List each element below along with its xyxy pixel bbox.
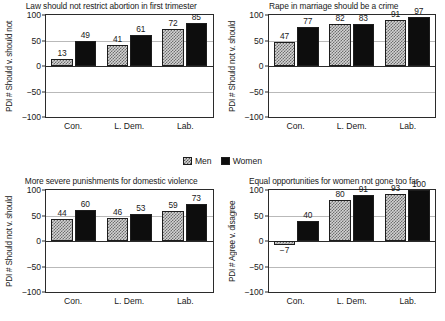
bar-value-label: 41 bbox=[113, 35, 122, 43]
bar-slot: 41 bbox=[106, 15, 129, 117]
bar-value-label: 82 bbox=[335, 14, 344, 22]
plot-frame: 100500−50−100−740809193100 bbox=[268, 189, 437, 293]
plot-frame: 100500−50−100134941617285 bbox=[45, 14, 214, 118]
bar-value-label: 60 bbox=[81, 200, 90, 208]
legend-item-women: Women bbox=[221, 156, 262, 166]
y-tick-label: −100 bbox=[244, 287, 263, 297]
bar-women[interactable] bbox=[130, 214, 151, 241]
bar-group: 4777 bbox=[273, 15, 320, 117]
x-axis-labels: Con.L. Dem.Lab. bbox=[45, 296, 214, 306]
bar-value-label: 97 bbox=[414, 7, 423, 15]
x-axis-label: Lab. bbox=[384, 121, 431, 131]
bar-men[interactable] bbox=[385, 20, 406, 66]
bar-women[interactable] bbox=[408, 17, 429, 66]
bar-women[interactable] bbox=[186, 204, 207, 241]
x-axis-label: L. Dem. bbox=[106, 121, 153, 131]
y-tick-label: 50 bbox=[31, 211, 41, 221]
bar-women[interactable] bbox=[186, 23, 207, 66]
x-axis-label: L. Dem. bbox=[328, 296, 375, 306]
legend: Men Women bbox=[0, 146, 445, 175]
x-axis-label: Con. bbox=[49, 121, 96, 131]
bar-slot: 60 bbox=[74, 190, 97, 292]
plot-frame: 100500−50−100477782839197 bbox=[268, 14, 437, 118]
bar-value-label: 44 bbox=[57, 209, 66, 217]
bar-value-label: 83 bbox=[359, 14, 368, 22]
bar-women[interactable] bbox=[353, 24, 374, 66]
x-axis-label: Lab. bbox=[384, 296, 431, 306]
y-tick-label: 100 bbox=[27, 185, 41, 195]
bar-slot: 44 bbox=[50, 190, 73, 292]
bar-value-label: 59 bbox=[168, 201, 177, 209]
legend-item-men: Men bbox=[183, 156, 212, 166]
bar-group: 4460 bbox=[50, 190, 97, 292]
y-tick-label: −50 bbox=[26, 262, 41, 272]
bar-men[interactable] bbox=[162, 211, 183, 241]
bar-groups: −740809193100 bbox=[269, 190, 436, 292]
bar-slot: 46 bbox=[106, 190, 129, 292]
bar-value-label: 77 bbox=[303, 17, 312, 25]
bar-slot: 85 bbox=[185, 15, 208, 117]
bar-groups: 446046535973 bbox=[46, 190, 213, 292]
x-axis-label: Con. bbox=[272, 296, 319, 306]
bar-group: 5973 bbox=[161, 190, 208, 292]
y-tick-label: 100 bbox=[27, 10, 41, 20]
bar-slot: 72 bbox=[161, 15, 184, 117]
bar-value-label: 100 bbox=[412, 180, 426, 188]
bar-men[interactable] bbox=[107, 45, 128, 66]
y-tick-label: 100 bbox=[249, 10, 263, 20]
bar-group: −740 bbox=[273, 190, 320, 292]
bar-value-label: 46 bbox=[113, 208, 122, 216]
legend-label-men: Men bbox=[195, 156, 212, 166]
bar-slot: 100 bbox=[407, 190, 430, 292]
panel-abortion: Law should not restrict abortion in firs… bbox=[0, 0, 223, 146]
bar-women[interactable] bbox=[297, 27, 318, 66]
bar-slot: 49 bbox=[74, 15, 97, 117]
bar-value-label: 61 bbox=[136, 25, 145, 33]
bar-value-label: 80 bbox=[335, 190, 344, 198]
bar-group: 9197 bbox=[384, 15, 431, 117]
panel-rape-in-marriage: Rape in marriage should be a crime PDI #… bbox=[223, 0, 445, 146]
bar-men[interactable] bbox=[274, 42, 295, 66]
y-tick-label: −100 bbox=[244, 112, 263, 122]
bar-women[interactable] bbox=[353, 195, 374, 241]
plot-area: 100500−50−100477782839197 bbox=[268, 14, 437, 118]
bar-women[interactable] bbox=[408, 190, 429, 241]
y-tick-label: −100 bbox=[22, 287, 41, 297]
bar-value-label: 13 bbox=[57, 49, 66, 57]
bar-slot: 82 bbox=[328, 15, 351, 117]
bar-women[interactable] bbox=[297, 221, 318, 241]
bar-men[interactable] bbox=[329, 200, 350, 241]
bar-men[interactable] bbox=[107, 218, 128, 241]
bar-value-label: 93 bbox=[391, 184, 400, 192]
y-axis-label: PDI # Should not v. should bbox=[3, 189, 15, 293]
x-axis-label: L. Dem. bbox=[106, 296, 153, 306]
bar-slot: 91 bbox=[352, 190, 375, 292]
bar-slot: 61 bbox=[129, 15, 152, 117]
bar-value-label: 40 bbox=[303, 211, 312, 219]
bar-slot: 59 bbox=[161, 190, 184, 292]
bar-women[interactable] bbox=[130, 35, 151, 66]
y-tick-label: −50 bbox=[249, 87, 264, 97]
legend-swatch-men-icon bbox=[183, 157, 192, 165]
bar-slot: 83 bbox=[352, 15, 375, 117]
plot-frame: 100500−50−100446046535973 bbox=[45, 189, 214, 293]
bar-women[interactable] bbox=[75, 210, 96, 241]
legend-label-women: Women bbox=[233, 156, 262, 166]
bar-women[interactable] bbox=[75, 41, 96, 66]
x-axis-label: Con. bbox=[49, 296, 96, 306]
bar-value-label: 91 bbox=[391, 10, 400, 18]
bar-men[interactable] bbox=[51, 59, 72, 66]
bar-men[interactable] bbox=[329, 24, 350, 66]
bar-group: 93100 bbox=[384, 190, 431, 292]
bar-slot: −7 bbox=[273, 190, 296, 292]
bar-men[interactable] bbox=[51, 219, 72, 241]
legend-swatch-women-icon bbox=[221, 157, 230, 165]
bar-men[interactable] bbox=[385, 194, 406, 241]
bar-slot: 97 bbox=[407, 15, 430, 117]
y-tick-label: 50 bbox=[254, 211, 264, 221]
bar-men[interactable] bbox=[162, 29, 183, 66]
x-axis-label: Lab. bbox=[162, 121, 209, 131]
bar-value-label: 72 bbox=[168, 19, 177, 27]
bar-slot: 53 bbox=[129, 190, 152, 292]
x-axis-labels: Con.L. Dem.Lab. bbox=[268, 121, 437, 131]
